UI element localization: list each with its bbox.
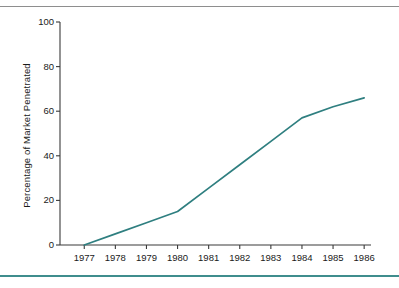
axis-tick-marks bbox=[56, 22, 364, 249]
chart-figure: Percentage of Market Penetrated 0 20 40 … bbox=[0, 0, 399, 288]
data-series-line bbox=[84, 98, 364, 245]
plot-area bbox=[0, 0, 399, 288]
axes-lines bbox=[60, 22, 371, 245]
